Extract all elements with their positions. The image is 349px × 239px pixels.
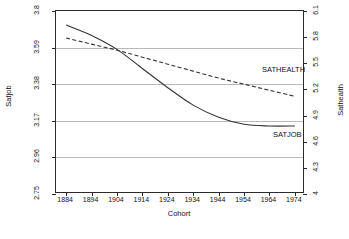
- y-axis-right-tick-label: 5.8: [312, 31, 319, 41]
- y-axis-right-tick-label: 4.9: [312, 110, 319, 120]
- tick-mark-right: [303, 194, 307, 195]
- x-axis-tick-label: 1944: [210, 196, 226, 203]
- x-axis-tick-label: 1954: [235, 196, 251, 203]
- x-axis-tick-label: 1934: [184, 196, 200, 203]
- x-axis-tick-label: 1894: [83, 196, 99, 203]
- y-axis-right-tick-label: 5.2: [312, 84, 319, 94]
- series-label-sathealth: SATHEALTH: [262, 65, 305, 74]
- x-axis-title: Cohort: [168, 209, 191, 218]
- tick-mark-left: [52, 194, 56, 195]
- cohort-satisfaction-chart: 3.83.593.383.172.962.75 6.15.85.55.24.94…: [0, 0, 349, 239]
- series-lines: [56, 11, 305, 194]
- series-line-sathealth: [66, 38, 295, 96]
- y-axis-right-tick-label: 4.6: [312, 136, 319, 146]
- y-axis-right-tick-label: 4: [312, 191, 319, 195]
- series-line-satjob: [66, 25, 295, 126]
- y-axis-right-title: Sathealth: [336, 84, 345, 116]
- plot-area: [55, 10, 304, 193]
- x-axis-tick-label: 1884: [57, 196, 73, 203]
- x-axis-tick-label: 1914: [134, 196, 150, 203]
- series-label-satjob: SATJOB: [273, 130, 302, 139]
- x-axis-tick-label: 1964: [261, 196, 277, 203]
- y-axis-right-tick-label: 5.5: [312, 57, 319, 67]
- y-axis-left-title: Satjob: [4, 85, 13, 106]
- x-axis-tick-label: 1924: [159, 196, 175, 203]
- x-axis-tick-label: 1904: [108, 196, 124, 203]
- y-axis-right-tick-label: 6.1: [312, 5, 319, 15]
- x-axis-tick-label: 1974: [286, 196, 302, 203]
- y-axis-right-tick-label: 4.3: [312, 162, 319, 172]
